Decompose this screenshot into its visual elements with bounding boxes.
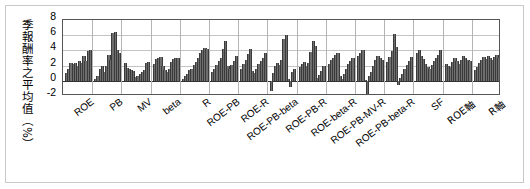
bar — [289, 81, 292, 87]
bar — [285, 35, 288, 81]
x-tick-label: R — [200, 96, 212, 109]
bar — [205, 49, 208, 81]
y-tick-label: 0 — [50, 72, 56, 82]
bar — [351, 58, 354, 81]
bar — [395, 47, 398, 81]
bar — [89, 50, 92, 80]
bar-series — [63, 20, 499, 94]
bar — [235, 56, 238, 80]
bar — [322, 66, 325, 80]
bar — [176, 58, 179, 81]
bar — [439, 50, 442, 81]
x-tick-label: PB — [108, 96, 125, 113]
x-tick-label: SF — [429, 96, 446, 113]
y-axis-tick-labels: 86420-2 — [36, 16, 58, 96]
bar — [314, 46, 317, 81]
plot-area — [62, 19, 500, 95]
bar — [270, 81, 273, 92]
bar — [118, 53, 121, 81]
y-axis-title: 季報酬率之平均值（%） — [12, 14, 32, 154]
bar — [410, 57, 413, 81]
x-tick-label: ROE — [72, 96, 96, 118]
y-tick-label: 8 — [50, 11, 56, 21]
bar — [468, 61, 471, 81]
x-axis-tick-labels: ROEPBMVbetaRROE-PBROE-RROE-PB-betaROE-PB… — [62, 96, 500, 158]
x-tick-label: ROE軸 — [444, 96, 478, 127]
bar — [497, 58, 500, 81]
bar — [381, 60, 384, 81]
x-tick-label: beta — [161, 96, 183, 117]
bar — [366, 81, 369, 95]
x-tick-label: MV — [135, 96, 154, 114]
y-tick-label: -2 — [47, 87, 56, 97]
y-tick-label: 6 — [50, 26, 56, 36]
bar — [361, 50, 364, 80]
chart-figure: 季報酬率之平均值（%） 86420-2 ROEPBMVbetaRROE-PBRO… — [0, 0, 530, 189]
y-tick-label: 4 — [50, 41, 56, 51]
y-tick-label: 2 — [50, 57, 56, 67]
bar — [147, 62, 150, 81]
bar — [397, 81, 400, 86]
bar — [264, 53, 267, 80]
bar — [293, 69, 296, 80]
